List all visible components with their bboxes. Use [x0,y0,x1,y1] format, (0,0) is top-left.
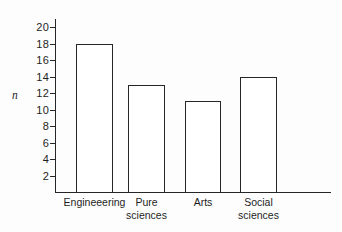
y-axis-tick-label: 6 [43,137,49,148]
bar-chart-figure: n 2468101214161820 EngineeeringPure scie… [0,0,342,232]
bar [240,77,277,192]
bar-series [55,19,330,192]
y-axis-tick-label: 12 [36,88,49,99]
y-axis-label: n [12,89,18,101]
x-axis-category-label: Social sciences [213,196,305,222]
bar [185,101,221,192]
y-axis-tick-label: 14 [36,71,49,82]
y-axis-tick-label: 16 [36,55,49,66]
y-axis-tick-label: 18 [36,38,49,49]
y-axis-tick-label: 8 [43,121,49,132]
y-axis-tick-label: 2 [43,170,49,181]
y-axis-tick-label: 10 [36,104,49,115]
y-axis-tick-label: 4 [43,154,49,165]
y-axis-tick-label: 20 [36,22,49,33]
bar [76,44,113,192]
x-axis-line [55,192,331,193]
bar [128,85,165,192]
